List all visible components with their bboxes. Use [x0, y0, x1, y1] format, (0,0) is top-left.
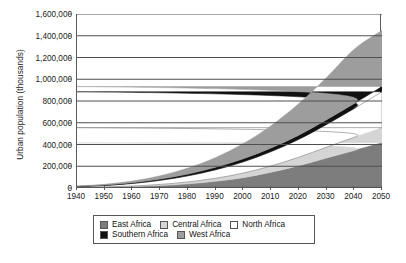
legend-label: West Africa — [189, 230, 230, 239]
x-tick-label: 2020 — [289, 192, 307, 201]
y-tick-mark — [68, 57, 72, 58]
x-tick-label: 2010 — [261, 192, 279, 201]
y-tick-label: 1,600,000 — [10, 10, 72, 19]
x-tick-mark — [104, 186, 105, 190]
y-axis-tick-labels: 0200,000400,000600,000800,0001,000,0001,… — [0, 14, 72, 188]
y-tick-mark — [68, 101, 72, 102]
legend-label: North Africa — [242, 220, 285, 229]
x-tick-label: 2000 — [233, 192, 251, 201]
x-tick-mark — [159, 186, 160, 190]
legend-swatch-icon — [160, 221, 168, 229]
y-tick-label: 800,000 — [10, 97, 72, 106]
y-tick-label: 400,000 — [10, 140, 72, 149]
x-tick-mark — [270, 186, 271, 190]
stacked-areas — [77, 30, 382, 188]
y-tick-mark — [68, 79, 72, 80]
x-tick-label: 2050 — [372, 192, 390, 201]
x-tick-mark — [242, 186, 243, 190]
legend-row-2: Southern AfricaWest Africa — [100, 230, 309, 239]
x-tick-mark — [326, 186, 327, 190]
y-tick-label: 0 — [10, 184, 72, 193]
x-tick-label: 1970 — [150, 192, 168, 201]
y-tick-label: 1,200,000 — [10, 53, 72, 62]
x-tick-label: 1950 — [95, 192, 113, 201]
legend-item-central-africa[interactable]: Central Africa — [160, 220, 221, 229]
y-tick-mark — [68, 35, 72, 36]
x-tick-mark — [215, 186, 216, 190]
x-tick-label: 1940 — [67, 192, 85, 201]
area-series-group — [77, 14, 382, 188]
x-tick-mark — [187, 186, 188, 190]
legend-item-north-africa[interactable]: North Africa — [230, 220, 285, 229]
legend-swatch-icon — [100, 231, 108, 239]
x-tick-label: 2030 — [316, 192, 334, 201]
x-tick-mark — [353, 186, 354, 190]
legend-row-1: East AfricaCentral AfricaNorth Africa — [100, 220, 309, 229]
chart-legend: East AfricaCentral AfricaNorth Africa So… — [93, 215, 315, 244]
y-tick-label: 200,000 — [10, 162, 72, 171]
legend-label: Central Africa — [172, 220, 221, 229]
stacked-area-chart: Urban population (thousands) 0200,000400… — [0, 0, 406, 263]
y-tick-mark — [68, 166, 72, 167]
x-tick-mark — [76, 186, 77, 190]
y-tick-label: 1,400,000 — [10, 31, 72, 40]
x-tick-label: 1990 — [206, 192, 224, 201]
legend-item-west-africa[interactable]: West Africa — [177, 230, 230, 239]
plot-area — [76, 14, 381, 188]
legend-item-southern-africa[interactable]: Southern Africa — [100, 230, 168, 239]
x-tick-label: 2040 — [344, 192, 362, 201]
legend-swatch-icon — [100, 221, 108, 229]
y-tick-label: 1,000,000 — [10, 75, 72, 84]
y-tick-mark — [68, 188, 72, 189]
legend-item-east-africa[interactable]: East Africa — [100, 220, 151, 229]
y-tick-mark — [68, 144, 72, 145]
y-tick-mark — [68, 122, 72, 123]
legend-swatch-icon — [177, 231, 185, 239]
x-tick-mark — [131, 186, 132, 190]
legend-swatch-icon — [230, 221, 238, 229]
legend-label: East Africa — [112, 220, 151, 229]
y-tick-mark — [68, 14, 72, 15]
x-tick-mark — [381, 186, 382, 190]
y-tick-label: 600,000 — [10, 118, 72, 127]
x-tick-label: 1980 — [178, 192, 196, 201]
legend-label: Southern Africa — [112, 230, 168, 239]
x-axis-tick-labels: 1940195019601970198019902000201020202030… — [76, 190, 381, 206]
x-tick-mark — [298, 186, 299, 190]
x-tick-label: 1960 — [122, 192, 140, 201]
